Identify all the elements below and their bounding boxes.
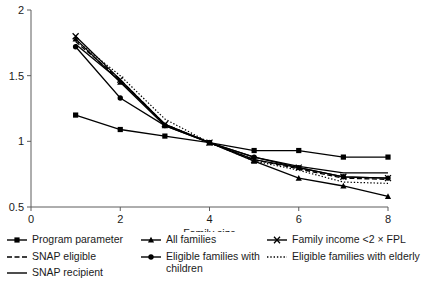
legend-item[interactable]: Family income <2 × FPL (266, 233, 421, 246)
chart-page: 0.511.5202468 Family size Program parame… (0, 0, 421, 289)
legend-column-2: All familiesEligible families with child… (140, 233, 265, 277)
legend-column-1: Program parameterSNAP eligibleSNAP recip… (6, 233, 146, 283)
series-3 (76, 44, 388, 173)
series-7 (76, 40, 388, 183)
legend-item-label: SNAP eligible (32, 250, 96, 262)
legend-column-3: Family income <2 × FPLEligible families … (266, 233, 421, 266)
data-point (73, 44, 78, 49)
legend-item-label: Family income <2 × FPL (292, 233, 406, 245)
plot-area: 0.511.5202468 Family size (0, 0, 421, 232)
x-tick-label: 4 (206, 213, 212, 225)
x-tick-label: 6 (296, 213, 302, 225)
y-tick-label: 2 (18, 4, 24, 16)
series-5 (73, 44, 391, 181)
line-chart: 0.511.5202468 Family size (0, 0, 421, 232)
legend-item[interactable]: Eligible families with children (140, 250, 265, 274)
solid-key-icon (6, 266, 28, 279)
data-point (296, 148, 301, 153)
axis-lines (31, 10, 388, 207)
y-tick-label: 1 (18, 135, 24, 147)
data-point (385, 154, 390, 159)
data-point (252, 148, 257, 153)
x-tick-label: 0 (28, 213, 34, 225)
axes-group: 0.511.5202468 (9, 4, 391, 225)
legend-item[interactable]: SNAP eligible (6, 250, 146, 263)
x-tick-label: 8 (385, 213, 391, 225)
series-group (73, 33, 392, 199)
series-1 (73, 112, 391, 159)
legend-item[interactable]: Program parameter (6, 233, 146, 246)
solid-circle-key-icon (140, 250, 162, 263)
legend-item-label: Eligible families with children (166, 250, 260, 274)
dashed-key-icon (6, 250, 28, 263)
data-point (341, 154, 346, 159)
legend-item[interactable]: SNAP recipient (6, 266, 146, 279)
legend-item[interactable]: All families (140, 233, 265, 246)
solid-cross-key-icon (266, 233, 288, 246)
legend-item-label: SNAP recipient (32, 266, 103, 278)
x-tick-label: 2 (117, 213, 123, 225)
axis-labels-group: Family size (183, 227, 236, 232)
series-path (76, 44, 388, 173)
solid-square-key-icon (6, 233, 28, 246)
data-point (73, 112, 78, 117)
legend-item-label: Program parameter (32, 233, 123, 245)
data-point (162, 133, 167, 138)
solid-triangle-key-icon (140, 233, 162, 246)
dotted-key-icon (266, 250, 288, 263)
x-axis-title: Family size (183, 227, 236, 232)
data-point (118, 95, 123, 100)
chart-legend: Program parameterSNAP eligibleSNAP recip… (0, 233, 421, 289)
legend-item[interactable]: Eligible families with elderly (266, 250, 421, 263)
data-point (118, 127, 123, 132)
y-tick-label: 1.5 (9, 70, 24, 82)
legend-item-label: Eligible families with elderly (292, 250, 420, 262)
y-tick-label: 0.5 (9, 201, 24, 213)
series-path (76, 40, 388, 183)
legend-item-label: All families (166, 233, 216, 245)
